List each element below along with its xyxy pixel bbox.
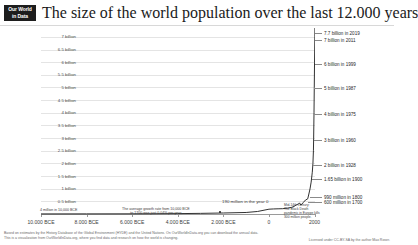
milestone-label: 7 billion in 2011 — [324, 38, 356, 43]
milestone-label: 4 billion in 1975 — [324, 112, 356, 117]
population-curve — [41, 28, 315, 215]
chart-header: Our World in Data The size of the world … — [0, 0, 394, 26]
milestone-label: 3 billion in 1960 — [324, 138, 356, 143]
milestone-label: 990 million in 1800 — [324, 195, 362, 200]
x-tick-label: 4.000 BCE — [166, 219, 190, 225]
milestone-label: 6 billion in 1999 — [324, 62, 356, 67]
annotation-black-death: Mid-14th century: The Black Death pandem… — [284, 203, 328, 219]
milestone-leader-line — [312, 179, 322, 180]
annotation-growth-rate: The average growth rate from 10,000 BCE … — [122, 207, 190, 216]
x-tick-label: 0 — [268, 219, 271, 225]
x-tick-label: 2.000 BCE — [211, 219, 235, 225]
x-tick-label: 10.000 BCE — [28, 219, 55, 225]
annotation-year-zero: 190 million in the year 0 — [222, 200, 268, 204]
logo-line-1: Our World — [4, 6, 36, 13]
milestone-label: 2 billion in 1928 — [324, 163, 356, 168]
milestone-leader-line — [314, 114, 322, 115]
annotation-start-value: 4 million in 10,000 BCE — [40, 208, 77, 212]
footer-license: Licensed under CC-BY-SA by the author Ma… — [309, 238, 390, 243]
milestone-leader-line — [315, 33, 322, 34]
black-death-line-4: 300 million people. — [284, 215, 328, 219]
our-world-in-data-logo: Our World in Data — [4, 5, 36, 21]
x-tick-label: 8.000 BCE — [75, 219, 99, 225]
chart-title: The size of the world population over th… — [42, 3, 418, 23]
milestone-leader-line — [313, 165, 322, 166]
x-tick-label: 2000 — [309, 219, 320, 225]
logo-line-2: in Data — [4, 13, 36, 20]
growth-rate-line-2: to 1700 was just 0.04% per year — [122, 211, 190, 215]
milestone-leader-line — [315, 64, 322, 65]
header-divider — [0, 25, 394, 26]
milestone-leader-line — [314, 88, 322, 89]
milestone-leader-line — [314, 140, 322, 141]
milestone-leader-line — [310, 197, 322, 198]
x-tick-label: 6.000 BCE — [120, 219, 144, 225]
milestone-label: 600 million in 1700 — [324, 200, 362, 205]
milestone-leader-line — [315, 40, 322, 41]
milestone-label: 5 billion in 1987 — [324, 86, 356, 91]
milestone-label: 1.65 billion in 1900 — [324, 177, 362, 182]
milestone-label: 7.7 billion in 2019 — [324, 31, 360, 36]
